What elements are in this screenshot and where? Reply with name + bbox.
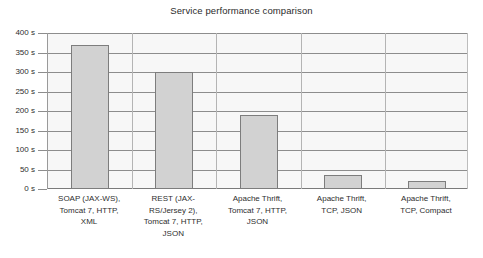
x-axis-label: Apache Thrift,Tomcat 7, HTTP,JSON [215,193,299,228]
bar [324,175,362,189]
bar [71,45,109,189]
category-separator [132,33,133,189]
y-tick-label: 100 s [0,145,35,154]
y-tick-label: 250 s [0,87,35,96]
x-axis-label-line: SOAP (JAX-WS), [47,193,131,205]
y-tick-mark-50 [38,170,47,171]
x-axis-label-line: RS/Jersey 2), [131,205,215,217]
y-tick-label: 50 s [0,165,35,174]
y-tick-label: 350 s [0,48,35,57]
bar [408,181,446,189]
x-axis-label-line: XML [47,216,131,228]
x-axis-label-line: TCP, JSON [300,205,384,217]
x-axis-label: Apache Thrift,TCP, JSON [300,193,384,216]
y-tick-mark-300 [38,72,47,73]
x-axis-label-line: TCP, Compact [384,205,468,217]
bar-chart-figure: Service performance comparison SOAP (JAX… [0,0,483,258]
plot-area [47,33,468,189]
chart-title: Service performance comparison [0,5,483,16]
gridline-400 [48,33,467,34]
y-tick-mark-100 [38,150,47,151]
y-tick-label: 400 s [0,28,35,37]
bar [240,115,278,189]
y-tick-mark-150 [38,131,47,132]
bar [155,72,193,189]
x-axis-label: Apache Thrift,TCP, Compact [384,193,468,216]
y-tick-mark-200 [38,111,47,112]
gridline-350 [48,53,467,54]
x-axis-label-line: REST (JAX- [131,193,215,205]
x-axis-label-line: Tomcat 7, HTTP, [131,216,215,228]
x-axis-label-line: Tomcat 7, HTTP, [215,205,299,217]
gridline-250 [48,92,467,93]
y-tick-label: 200 s [0,106,35,115]
y-tick-label: 150 s [0,126,35,135]
x-axis-label-line: JSON [131,228,215,240]
category-separator [216,33,217,189]
y-tick-mark-400 [38,33,47,34]
gridline-300 [48,72,467,73]
category-separator [385,33,386,189]
x-axis-category-labels: SOAP (JAX-WS),Tomcat 7, HTTP,XMLREST (JA… [47,193,468,255]
x-axis-label: REST (JAX-RS/Jersey 2),Tomcat 7, HTTP,JS… [131,193,215,239]
x-axis-label-line: Tomcat 7, HTTP, [47,205,131,217]
x-axis-label-line: JSON [215,216,299,228]
y-tick-label: 300 s [0,67,35,76]
x-axis-label-line: Apache Thrift, [215,193,299,205]
y-tick-label: 0 s [0,184,35,193]
category-separator [301,33,302,189]
y-tick-mark-250 [38,92,47,93]
gridline-200 [48,111,467,112]
y-tick-mark-350 [38,53,47,54]
x-axis-label-line: Apache Thrift, [300,193,384,205]
y-tick-mark-0 [38,189,47,190]
x-axis-label-line: Apache Thrift, [384,193,468,205]
x-axis-label: SOAP (JAX-WS),Tomcat 7, HTTP,XML [47,193,131,228]
